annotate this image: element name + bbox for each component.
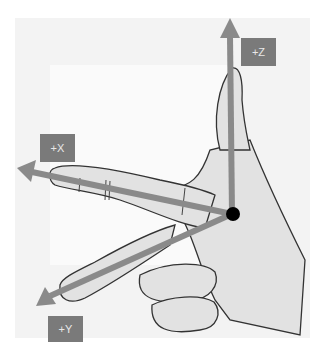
y-axis-label: +Y xyxy=(48,316,83,342)
origin-point xyxy=(226,207,240,221)
hand-sketch xyxy=(0,0,326,359)
x-axis-label: +X xyxy=(40,134,75,162)
right-hand-rule-diagram: +Z +X +Y xyxy=(0,0,326,359)
z-axis-label: +Z xyxy=(241,38,276,66)
